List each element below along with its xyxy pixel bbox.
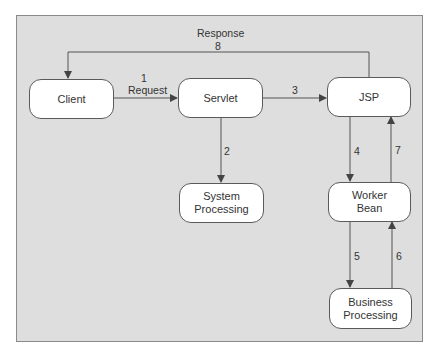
node-worker-bean[interactable]: Worker Bean xyxy=(328,182,411,222)
node-business-processing[interactable]: Business Processing xyxy=(329,288,412,329)
edge-2-step: 2 xyxy=(224,145,230,157)
node-system-processing-label: System Processing xyxy=(194,190,248,216)
edge-8-response xyxy=(68,52,369,78)
node-system-processing[interactable]: System Processing xyxy=(179,183,264,223)
node-business-processing-label: Business Processing xyxy=(343,296,397,322)
node-client[interactable]: Client xyxy=(29,79,114,119)
edge-8-step: 8 xyxy=(215,40,221,52)
node-client-label: Client xyxy=(57,93,85,106)
edge-1-step: 1 xyxy=(141,72,147,84)
node-jsp-label: JSP xyxy=(359,91,379,104)
node-jsp[interactable]: JSP xyxy=(327,77,411,117)
edge-3-step: 3 xyxy=(292,84,298,96)
edge-4-step: 4 xyxy=(354,145,360,157)
edge-7-step: 7 xyxy=(395,144,401,156)
edge-6-step: 6 xyxy=(396,250,402,262)
edge-5-step: 5 xyxy=(354,250,360,262)
node-servlet[interactable]: Servlet xyxy=(178,78,263,118)
node-servlet-label: Servlet xyxy=(203,92,237,105)
edge-1-label: Request xyxy=(128,84,167,96)
node-worker-bean-label: Worker Bean xyxy=(352,189,387,215)
edge-8-label: Response xyxy=(197,27,244,39)
